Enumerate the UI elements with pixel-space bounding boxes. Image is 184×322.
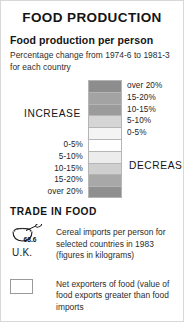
- legend-row-decrease-15-20[interactable]: 15-20%: [88, 174, 122, 186]
- legend-row-decrease-0-5[interactable]: 0-5%: [88, 139, 122, 151]
- trade-cereal-row: 68.6 U.K. Cereal imports per person for …: [10, 224, 174, 262]
- trade-exporter-row: Net exporters of food (value of food exp…: [10, 276, 174, 314]
- cereal-bowl-country: U.K.: [12, 247, 32, 258]
- legend-row-increase-10-15[interactable]: 10-15%: [88, 104, 122, 116]
- production-note: Percentage change from 1974-6 to 1981-3 …: [10, 50, 174, 73]
- increase-label: INCREASE: [24, 108, 81, 119]
- production-heading: Food production per person: [10, 34, 174, 46]
- legend-swatch-column: over 20% 15-20% 10-15% 5-10% 0-5%: [88, 80, 122, 198]
- legend-row-increase-5-10[interactable]: 5-10%: [88, 115, 122, 127]
- legend-scale: INCREASE DECREASE over 20% 15-20% 10-15%: [10, 80, 174, 198]
- swatch-decrease-5-10: [88, 151, 122, 163]
- legend-row-increase-15-20[interactable]: 15-20%: [88, 92, 122, 104]
- legend-row-increase-0-5[interactable]: 0-5%: [88, 127, 122, 139]
- swatch-label-increase-10-15: 10-15%: [127, 104, 156, 116]
- swatch-increase-0-5: [88, 127, 122, 139]
- decrease-label: DECREASE: [129, 160, 184, 171]
- swatch-increase-over20: [88, 80, 122, 92]
- stipple-pattern-swatch: [10, 279, 33, 294]
- swatch-increase-15-20: [88, 92, 122, 104]
- swatch-decrease-15-20: [88, 174, 122, 186]
- trade-heading: TRADE IN FOOD: [10, 206, 174, 217]
- swatch-label-increase-5-10: 5-10%: [127, 115, 151, 127]
- swatch-decrease-over20: [88, 186, 122, 198]
- legend-row-decrease-10-15[interactable]: 10-15%: [88, 163, 122, 175]
- legend-row-increase-over20[interactable]: over 20%: [88, 80, 122, 92]
- exporter-key: [10, 276, 56, 296]
- swatch-label-decrease-10-15: 10-15%: [54, 163, 83, 175]
- legend-row-decrease-over20[interactable]: over 20%: [88, 186, 122, 198]
- swatch-label-increase-over20: over 20%: [127, 80, 162, 92]
- cereal-description: Cereal imports per person for selected c…: [56, 224, 174, 262]
- swatch-decrease-10-15: [88, 163, 122, 175]
- swatch-label-increase-0-5: 0-5%: [127, 127, 147, 139]
- swatch-label-increase-15-20: 15-20%: [127, 92, 156, 104]
- legend-row-decrease-5-10[interactable]: 5-10%: [88, 151, 122, 163]
- swatch-label-decrease-15-20: 15-20%: [54, 174, 83, 186]
- swatch-increase-5-10: [88, 115, 122, 127]
- swatch-label-decrease-5-10: 5-10%: [59, 151, 83, 163]
- panel-title: FOOD PRODUCTION: [1, 10, 183, 25]
- cereal-bowl-value: 68.6: [15, 236, 45, 243]
- cereal-bowl-key: 68.6 U.K.: [10, 224, 56, 260]
- swatch-label-decrease-0-5: 0-5%: [63, 139, 83, 151]
- swatch-label-decrease-over20: over 20%: [48, 186, 83, 198]
- swatch-increase-10-15: [88, 104, 122, 116]
- exporter-description: Net exporters of food (value of food exp…: [56, 276, 174, 314]
- panel-title-bar: FOOD PRODUCTION: [1, 1, 183, 32]
- food-production-legend-panel: FOOD PRODUCTION Food production per pers…: [0, 0, 184, 322]
- production-section: Food production per person Percentage ch…: [1, 34, 183, 313]
- swatch-decrease-0-5: [88, 139, 122, 151]
